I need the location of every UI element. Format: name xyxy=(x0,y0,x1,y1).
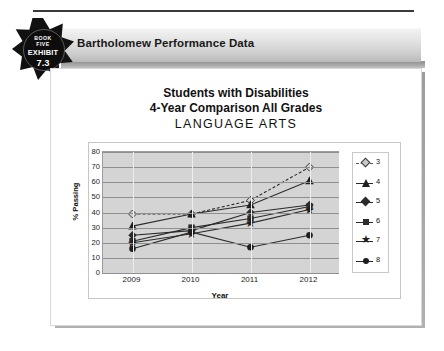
y-axis-ticks: 80706050403020100 xyxy=(77,151,100,272)
legend-label: 3 xyxy=(376,157,380,166)
diamond-open-marker-icon xyxy=(361,158,370,167)
legend-item-3[interactable]: 3 xyxy=(353,154,388,173)
grid-line xyxy=(103,258,339,259)
category-grid-line xyxy=(133,152,134,273)
triangle-marker-icon xyxy=(361,178,370,187)
star-marker-icon: ★ xyxy=(361,236,370,245)
badge-exhibit-number: 7.3 xyxy=(12,57,74,68)
grid-line xyxy=(103,167,339,168)
grid-line xyxy=(103,152,339,153)
top-divider-rule xyxy=(33,10,414,12)
y-axis-tick-label: 80 xyxy=(80,147,100,156)
legend-item-8[interactable]: 8 xyxy=(353,252,388,271)
circle-marker-icon xyxy=(361,256,370,265)
legend-item-5[interactable]: 5 xyxy=(353,193,388,212)
category-grid-line xyxy=(310,152,311,273)
exhibit-page: Bartholomew Performance Data BOOK FIVE E… xyxy=(0,0,444,351)
series-line-3 xyxy=(133,167,310,214)
y-axis-tick-label: 10 xyxy=(80,253,100,262)
square-marker-icon xyxy=(361,217,370,226)
grid-line xyxy=(103,243,339,244)
legend-label: 6 xyxy=(376,216,380,225)
legend-label: 7 xyxy=(376,235,380,244)
x-axis-tick-label: 2009 xyxy=(109,275,155,284)
legend-label: 8 xyxy=(376,255,380,264)
chart-legend: 3456★78 xyxy=(352,152,389,273)
badge-book-line2: FIVE xyxy=(12,41,74,47)
diamond-marker-icon xyxy=(361,197,370,206)
chart-subject: LANGUAGE ARTS xyxy=(51,117,421,131)
x-axis-tick-label: 2012 xyxy=(286,275,332,284)
legend-item-7[interactable]: ★7 xyxy=(353,232,388,251)
y-axis-tick-label: 0 xyxy=(80,268,100,277)
chart-subtitle: 4-Year Comparison All Grades xyxy=(51,101,421,115)
y-axis-tick-label: 20 xyxy=(80,238,100,247)
legend-label: 5 xyxy=(376,196,380,205)
header-title: Bartholomew Performance Data xyxy=(77,37,254,49)
plot-area: ★★★★ xyxy=(102,151,339,274)
grid-line xyxy=(103,182,339,183)
legend-label: 4 xyxy=(376,177,380,186)
x-axis-tick-label: 2011 xyxy=(227,275,273,284)
y-axis-tick-label: 60 xyxy=(80,177,100,186)
grid-line xyxy=(103,213,339,214)
chart-title: Students with Disabilities xyxy=(51,86,421,100)
y-axis-tick-label: 70 xyxy=(80,162,100,171)
category-grid-line xyxy=(251,152,252,273)
grid-line xyxy=(103,197,339,198)
legend-item-6[interactable]: 6 xyxy=(353,213,388,232)
x-axis-title: Year xyxy=(102,291,338,300)
chart-panel: Students with Disabilities 4-Year Compar… xyxy=(50,68,422,326)
y-axis-tick-label: 30 xyxy=(80,223,100,232)
badge-exhibit-label: EXHIBIT xyxy=(12,48,74,57)
series-line-4 xyxy=(133,181,310,226)
exhibit-header-bar: Bartholomew Performance Data xyxy=(57,28,421,62)
header-bar-shadow xyxy=(61,61,425,68)
x-axis-tick-label: 2010 xyxy=(168,275,214,284)
grid-line xyxy=(103,273,339,274)
y-axis-tick-label: 40 xyxy=(80,208,100,217)
legend-item-4[interactable]: 4 xyxy=(353,174,388,193)
y-axis-title: % Passing xyxy=(71,172,80,232)
grid-line xyxy=(103,228,339,229)
category-grid-line xyxy=(192,152,193,273)
y-axis-tick-label: 50 xyxy=(80,192,100,201)
